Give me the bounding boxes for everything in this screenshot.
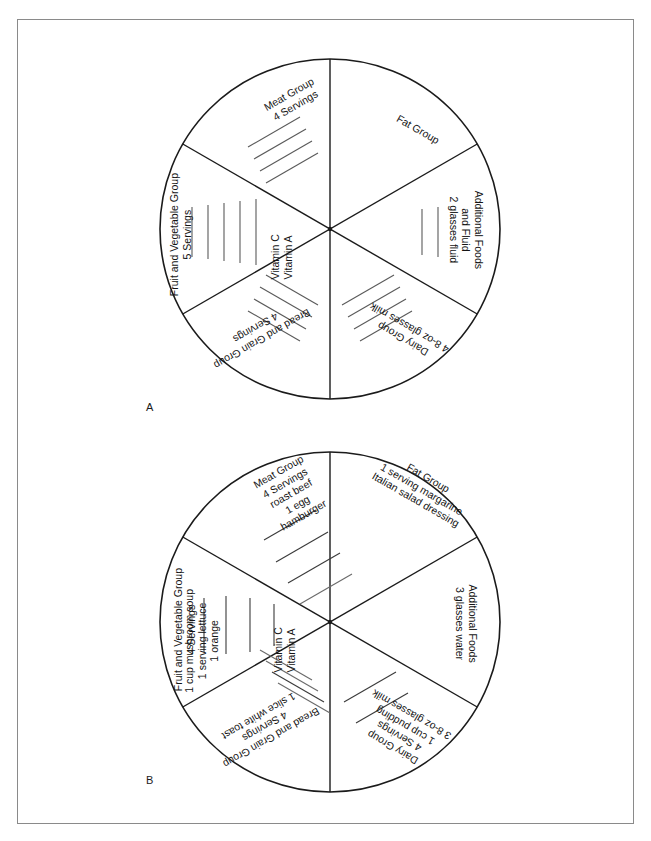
fruit-line-2: 5 Servings	[181, 145, 194, 325]
additional-line-3: 2 glasses fluid	[447, 150, 460, 310]
additional-line-1: Additional Foods	[466, 544, 479, 704]
figure-caption-b: B	[146, 774, 154, 786]
fruit-entries-b: 1 cup mushroom soup 1 serving lettuce 1 …	[183, 566, 221, 716]
additional-line-1: Additional Foods	[472, 150, 485, 310]
fruit-blank-tallies	[192, 199, 256, 265]
figure-a-circle-chart: Meat Group 4 Servings Fat Group Addition…	[130, 29, 530, 429]
vitamin-labels-b: Vitamin C Vitamin A	[272, 583, 297, 673]
additional-line-2: 3 glasses water	[453, 544, 466, 704]
center-dot	[328, 620, 332, 624]
vitamin-c-label: Vitamin C	[272, 583, 285, 673]
vitamin-a-label: Vitamin A	[285, 583, 298, 673]
page-canvas: Meat Group 4 Servings Fat Group Addition…	[0, 0, 651, 841]
additional-line-2: and Fluid	[460, 150, 473, 310]
additional-blank-tallies	[422, 207, 438, 257]
sector-label-additional-foods-b: Additional Foods 3 glasses water	[453, 544, 478, 704]
center-dot	[328, 227, 332, 231]
vitamin-a-label: Vitamin A	[282, 190, 295, 280]
fruit-line-5: 1 orange	[208, 566, 221, 716]
vitamin-c-label: Vitamin C	[269, 190, 282, 280]
vitamin-labels-a: Vitamin C Vitamin A	[269, 190, 294, 280]
sector-label-additional-foods-a: Additional Foods and Fluid 2 glasses flu…	[447, 150, 485, 310]
fruit-line-1: Fruit and Vegetable Group	[168, 145, 181, 325]
sector-label-fruit-vegetable-group-a: Fruit and Vegetable Group 5 Servings	[168, 145, 193, 325]
fruit-line-3: 1 cup mushroom soup	[183, 566, 196, 716]
figure-b-circle-chart: Meat Group 4 Servings roast beef 1 egg h…	[130, 422, 530, 822]
fruit-line-4: 1 serving lettuce	[196, 566, 209, 716]
meat-blank-tallies-b	[300, 574, 352, 604]
figure-caption-a: A	[146, 401, 154, 413]
